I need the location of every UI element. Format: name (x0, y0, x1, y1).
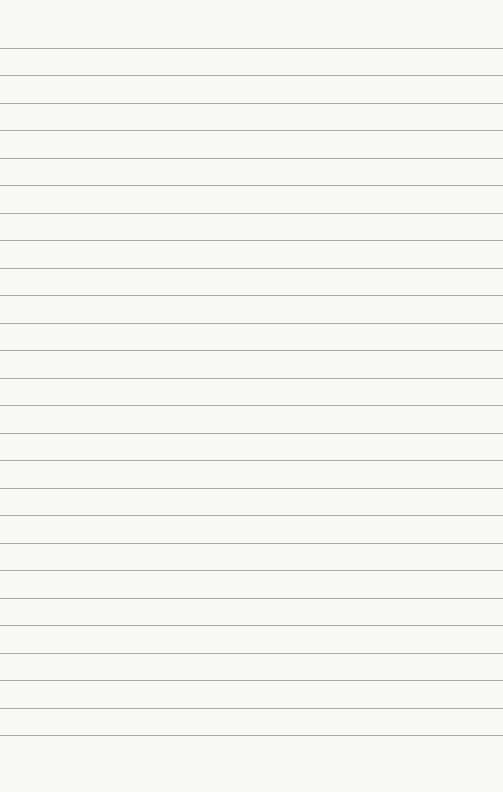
ruled-line (0, 570, 503, 571)
ruled-line (0, 460, 503, 461)
ruled-line (0, 378, 503, 379)
ruled-line (0, 48, 503, 49)
ruled-line (0, 130, 503, 131)
ruled-line (0, 158, 503, 159)
ruled-line (0, 295, 503, 296)
ruled-line (0, 543, 503, 544)
ruled-line (0, 488, 503, 489)
ruled-line (0, 433, 503, 434)
ruled-line (0, 268, 503, 269)
ruled-line (0, 515, 503, 516)
ruled-line (0, 735, 503, 736)
ruled-line (0, 75, 503, 76)
ruled-line (0, 680, 503, 681)
ruled-line (0, 625, 503, 626)
ruled-line (0, 213, 503, 214)
ruled-line (0, 350, 503, 351)
ruled-line (0, 708, 503, 709)
ruled-line (0, 240, 503, 241)
ruled-line (0, 103, 503, 104)
ruled-line (0, 185, 503, 186)
ruled-line (0, 405, 503, 406)
ruled-line (0, 323, 503, 324)
ruled-line (0, 598, 503, 599)
ruled-line (0, 653, 503, 654)
ruled-paper-sheet (0, 0, 503, 792)
